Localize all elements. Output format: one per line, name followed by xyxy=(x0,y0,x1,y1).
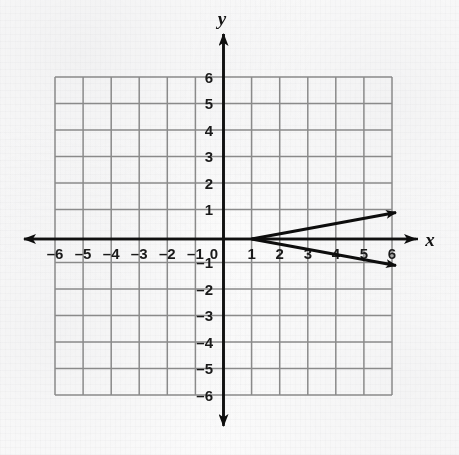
y-tick-4: 4 xyxy=(205,122,214,139)
x-tick-labels-negative: –6 –5 –4 –3 –2 –1 xyxy=(47,245,204,262)
x-axis-title: x xyxy=(424,229,435,250)
y-tick--3: –3 xyxy=(196,307,213,324)
y-tick-6: 6 xyxy=(205,69,213,86)
y-tick--5: –5 xyxy=(196,360,213,377)
y-tick-labels-negative: –1 –2 –3 –4 –5 –6 xyxy=(196,254,213,404)
graph-ray-lower xyxy=(252,239,396,266)
x-tick-2: 2 xyxy=(276,245,284,262)
graph-page: x y –6 –5 –4 –3 –2 –1 0 1 2 3 4 5 6 1 2 … xyxy=(0,0,459,455)
y-tick--4: –4 xyxy=(196,334,213,351)
y-tick--6: –6 xyxy=(196,387,213,404)
x-tick-1: 1 xyxy=(247,245,255,262)
x-tick--5: –5 xyxy=(75,245,92,262)
y-tick-labels-positive: 1 2 3 4 5 6 xyxy=(205,69,214,219)
y-axis-title: y xyxy=(216,8,227,29)
x-tick-6: 6 xyxy=(388,245,396,262)
x-tick--6: –6 xyxy=(47,245,64,262)
y-tick-2: 2 xyxy=(205,175,213,192)
y-tick-5: 5 xyxy=(205,95,213,112)
x-tick-labels-positive: 1 2 3 4 5 6 xyxy=(247,245,396,262)
x-tick--2: –2 xyxy=(159,245,176,262)
x-tick--3: –3 xyxy=(131,245,148,262)
y-tick--2: –2 xyxy=(196,281,213,298)
y-tick-3: 3 xyxy=(205,148,213,165)
graph-ray-upper xyxy=(252,213,396,240)
y-tick--1: –1 xyxy=(196,254,213,271)
x-tick--4: –4 xyxy=(103,245,120,262)
y-tick-1: 1 xyxy=(205,201,213,218)
coordinate-plane-figure: x y –6 –5 –4 –3 –2 –1 0 1 2 3 4 5 6 1 2 … xyxy=(0,0,459,455)
